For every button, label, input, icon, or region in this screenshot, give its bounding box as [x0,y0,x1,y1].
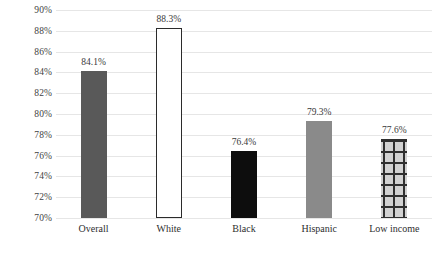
y-axis-tick-label: 74% [4,171,52,181]
bar-slot: 76.4% [206,10,281,218]
plot-area: 84.1%88.3%76.4%79.3%77.6% [56,10,432,218]
y-axis-tick-label: 76% [4,151,52,161]
gridline [56,218,432,219]
x-axis-tick-label: Hispanic [282,222,357,235]
y-axis-tick-label: 82% [4,88,52,98]
bar[interactable] [156,28,182,218]
bar-value-label: 88.3% [157,14,182,25]
x-axis: OverallWhiteBlackHispanicLow income [56,222,432,242]
x-axis-tick-label: White [131,222,206,235]
y-axis-tick-label: 84% [4,67,52,77]
bar[interactable] [231,151,257,218]
bar-value-label: 79.3% [307,107,332,118]
x-axis-tick-label: Overall [56,222,131,235]
y-axis-tick-label: 78% [4,130,52,140]
bar-value-label: 84.1% [81,57,106,68]
x-axis-tick-label: Low income [357,222,432,235]
bar-slot: 79.3% [282,10,357,218]
bar[interactable] [381,139,407,218]
y-axis-tick-label: 86% [4,47,52,57]
y-axis-tick-label: 88% [4,26,52,36]
bar[interactable] [81,71,107,218]
bar-slot: 84.1% [56,10,131,218]
y-axis-tick-label: 70% [4,213,52,223]
y-axis-tick-label: 80% [4,109,52,119]
y-axis-tick-label: 90% [4,5,52,15]
bar-slot: 88.3% [131,10,206,218]
x-axis-tick-label: Black [206,222,281,235]
y-axis-tick-label: 72% [4,192,52,202]
bar-value-label: 76.4% [232,137,257,148]
bar[interactable] [306,121,332,218]
bar-chart: 90%88%86%84%82%80%78%76%74%72%70% 84.1%8… [0,0,440,253]
bar-value-label: 77.6% [382,125,407,136]
bar-slot: 77.6% [357,10,432,218]
y-axis: 90%88%86%84%82%80%78%76%74%72%70% [0,10,52,218]
